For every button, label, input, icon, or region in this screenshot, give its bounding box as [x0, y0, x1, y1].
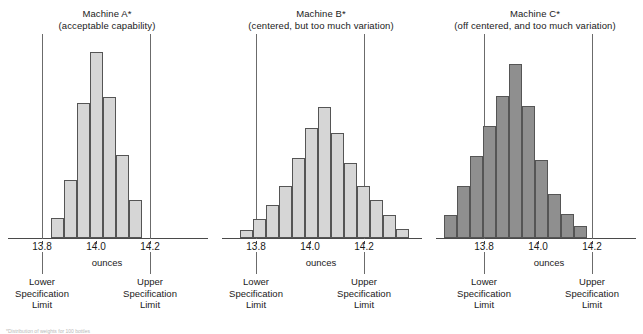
bar — [103, 97, 116, 238]
x-tick-label: 14.2 — [354, 241, 373, 252]
bar — [305, 128, 318, 238]
callout-line: Lower — [219, 276, 293, 288]
x-axis-line-b — [222, 238, 422, 239]
bar — [64, 180, 77, 238]
chart-title-c-main: Machine C* — [510, 8, 560, 19]
chart-title-a: Machine A* (acceptable capability) — [0, 8, 214, 32]
bar — [116, 155, 129, 238]
panel-machine-a: Machine A* (acceptable capability) 13.8 … — [0, 0, 214, 334]
x-tick-labels-b: 13.8 14.0 14.2 — [214, 241, 428, 255]
capability-histograms-figure: Machine A* (acceptable capability) 13.8 … — [0, 0, 643, 334]
callout-line: Limit — [447, 299, 521, 311]
callout-line: Limit — [327, 299, 401, 311]
bar — [535, 160, 548, 238]
x-tick-label: 13.8 — [474, 241, 493, 252]
callout-line: Specification — [327, 288, 401, 300]
callout-line: Limit — [219, 299, 293, 311]
callout-stem — [256, 252, 257, 274]
plot-area-c — [428, 34, 642, 239]
x-tick-label: 13.8 — [246, 241, 265, 252]
upper-spec-limit-callout-a: Upper Specification Limit — [113, 276, 187, 311]
callout-line: Specification — [447, 288, 521, 300]
bar — [240, 230, 253, 238]
lower-spec-limit-callout-a: Lower Specification Limit — [5, 276, 79, 311]
bar — [496, 96, 509, 238]
chart-title-c-sub: (off centered, and too much variation) — [428, 20, 642, 32]
lower-spec-limit-line-a — [42, 34, 43, 239]
bar — [90, 52, 103, 238]
bar — [470, 156, 483, 238]
bar — [548, 194, 561, 238]
callout-stem — [364, 252, 365, 274]
callout-line: Upper — [555, 276, 629, 288]
bar — [331, 133, 344, 238]
bar — [344, 163, 357, 238]
x-tick-label: 14.0 — [300, 241, 319, 252]
chart-title-b: Machine B* (centered, but too much varia… — [214, 8, 428, 32]
bar — [266, 205, 279, 238]
x-axis-title-a: ounces — [0, 257, 214, 268]
bar — [77, 103, 90, 238]
chart-title-b-sub: (centered, but too much variation) — [214, 20, 428, 32]
callout-stem — [42, 252, 43, 274]
chart-title-b-main: Machine B* — [296, 8, 346, 19]
lower-spec-limit-callout-c: Lower Specification Limit — [447, 276, 521, 311]
x-tick-label: 13.8 — [32, 241, 51, 252]
callout-line: Limit — [5, 299, 79, 311]
chart-title-c: Machine C* (off centered, and too much v… — [428, 8, 642, 32]
bar — [129, 200, 142, 238]
x-axis-title-b: ounces — [214, 257, 428, 268]
chart-title-a-main: Machine A* — [82, 8, 131, 19]
bar — [318, 107, 331, 238]
callout-stem — [592, 252, 593, 274]
callout-stem — [150, 252, 151, 274]
callout-line: Lower — [5, 276, 79, 288]
callout-line: Specification — [5, 288, 79, 300]
bar — [574, 226, 587, 238]
upper-spec-limit-callout-c: Upper Specification Limit — [555, 276, 629, 311]
bar — [561, 214, 574, 238]
callout-line: Specification — [219, 288, 293, 300]
x-axis-title-c: ounces — [442, 257, 643, 268]
x-tick-labels-c: 13.8 14.0 14.2 — [428, 241, 642, 255]
bar — [357, 186, 370, 238]
callout-stem — [484, 252, 485, 274]
plot-area-a — [0, 34, 214, 239]
upper-spec-limit-line-c — [592, 34, 593, 239]
chart-title-a-sub: (acceptable capability) — [0, 20, 214, 32]
lower-spec-limit-line-b — [256, 34, 257, 239]
x-tick-label: 14.2 — [582, 241, 601, 252]
plot-area-b — [214, 34, 428, 239]
bar — [483, 126, 496, 238]
callout-line: Limit — [555, 299, 629, 311]
bar — [509, 64, 522, 238]
bar — [51, 218, 64, 238]
panel-machine-c: Machine C* (off centered, and too much v… — [428, 0, 642, 334]
bar — [370, 200, 383, 238]
bar — [444, 215, 457, 238]
callout-line: Limit — [113, 299, 187, 311]
lower-spec-limit-callout-b: Lower Specification Limit — [219, 276, 293, 311]
bar — [383, 215, 396, 238]
callout-line: Specification — [555, 288, 629, 300]
x-tick-label: 14.0 — [86, 241, 105, 252]
upper-spec-limit-callout-b: Upper Specification Limit — [327, 276, 401, 311]
x-tick-label: 14.0 — [528, 241, 547, 252]
bar — [279, 186, 292, 238]
callout-line: Upper — [327, 276, 401, 288]
bar — [457, 186, 470, 238]
callout-line: Specification — [113, 288, 187, 300]
bar — [292, 158, 305, 238]
figure-footnote: *Distribution of weights for 100 bottles — [6, 328, 90, 334]
x-tick-labels-a: 13.8 14.0 14.2 — [0, 241, 214, 255]
upper-spec-limit-line-a — [150, 34, 151, 239]
x-axis-line-c — [436, 238, 636, 239]
callout-line: Lower — [447, 276, 521, 288]
bar — [522, 106, 535, 238]
x-tick-label: 14.2 — [140, 241, 159, 252]
bar — [396, 229, 409, 238]
x-axis-line-a — [8, 238, 208, 239]
callout-line: Upper — [113, 276, 187, 288]
bar — [253, 219, 266, 238]
panel-machine-b: Machine B* (centered, but too much varia… — [214, 0, 428, 334]
